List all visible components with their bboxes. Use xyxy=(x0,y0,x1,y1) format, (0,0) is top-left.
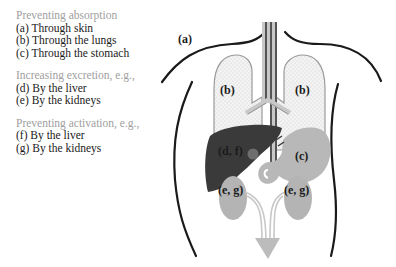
body-diagram: (a) (b) (b) (d, f) (c) (e, g) (e, g) xyxy=(0,0,396,267)
label-skin: (a) xyxy=(178,32,192,46)
label-stomach: (c) xyxy=(295,149,308,163)
arrow-head-icon xyxy=(255,238,280,259)
excretion-arrow xyxy=(245,192,285,242)
label-lung-left: (b) xyxy=(220,83,235,97)
label-lung-right: (b) xyxy=(295,83,310,97)
label-kidney-right: (e, g) xyxy=(284,183,309,197)
label-liver: (d, f) xyxy=(218,144,243,158)
gallbladder xyxy=(248,149,259,160)
label-kidney-left: (e, g) xyxy=(218,183,243,197)
